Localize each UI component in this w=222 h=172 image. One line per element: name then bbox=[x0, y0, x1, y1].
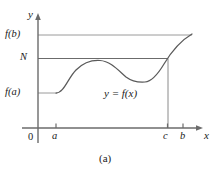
figure-container: y x f(b) N f(a) 0 a c b y = f(x) (a) bbox=[0, 0, 222, 172]
x-axis-label: x bbox=[204, 130, 209, 141]
curve-label: y = f(x) bbox=[104, 88, 137, 99]
y-axis-label: y bbox=[28, 9, 33, 20]
y-axis-arrow-icon bbox=[35, 13, 41, 20]
origin-label: 0 bbox=[28, 131, 33, 142]
x-tick-label-b: b bbox=[180, 131, 185, 142]
x-tick-label-a: a bbox=[52, 131, 57, 142]
x-axis-arrow-icon bbox=[196, 125, 203, 131]
y-value-label-fa: f(a) bbox=[5, 87, 20, 98]
y-value-label-n: N bbox=[20, 52, 27, 63]
function-curve bbox=[56, 34, 192, 93]
plot-svg bbox=[0, 0, 222, 172]
x-tick-label-c: c bbox=[163, 131, 168, 142]
figure-caption: (a) bbox=[99, 152, 111, 164]
y-value-label-fb: f(b) bbox=[5, 29, 20, 40]
